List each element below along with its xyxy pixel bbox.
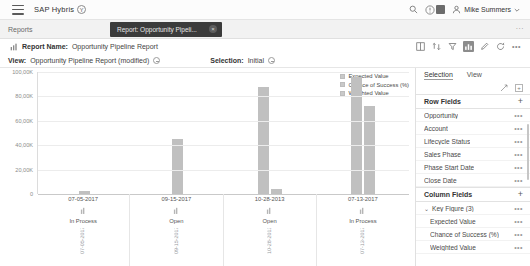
field-row-menu-icon[interactable]: ••• — [514, 164, 523, 171]
side-panel-scroll[interactable]: Row Fields+Opportunity•••Account•••Lifec… — [416, 94, 530, 266]
chart-view-icon[interactable] — [463, 41, 474, 52]
expand-collapse-icon[interactable] — [500, 84, 508, 92]
x-axis-status-label: In Process — [69, 218, 96, 224]
field-row[interactable]: Phase Start Date••• — [416, 161, 530, 174]
x-axis-mini-bar-icon — [359, 206, 366, 214]
field-row[interactable]: Weighted Value••• — [416, 241, 530, 254]
hamburger-menu-icon[interactable] — [12, 5, 24, 15]
user-menu[interactable]: Mike Summers — [452, 5, 520, 14]
field-row-menu-icon[interactable]: ••• — [514, 138, 523, 145]
selection-value[interactable]: Initial — [248, 57, 264, 64]
field-row-label: Opportunity — [424, 112, 458, 119]
user-avatar-icon — [452, 5, 461, 14]
add-field-button[interactable]: + — [518, 97, 523, 106]
y-axis-tick-label: 60,00K — [15, 118, 33, 124]
field-row-menu-icon[interactable]: ••• — [514, 151, 523, 158]
side-panel: SelectionView + Row Fields+Opportunity••… — [415, 68, 530, 266]
table-view-icon[interactable] — [415, 41, 426, 52]
gridline — [38, 145, 409, 146]
view-selection-bar: View: Opportunity Pipeline Report (modif… — [0, 54, 530, 68]
close-icon[interactable]: × — [209, 25, 217, 33]
field-row-menu-icon[interactable]: ••• — [514, 218, 523, 225]
x-axis-mini-bar-icon — [173, 206, 180, 214]
field-row-menu-icon[interactable]: ••• — [514, 205, 523, 212]
add-field-button[interactable]: + — [518, 190, 523, 199]
side-panel-tab[interactable]: View — [467, 71, 482, 79]
chart-bar[interactable] — [172, 139, 183, 194]
field-row-label: Key Figure (3) — [432, 205, 474, 212]
field-row-name: Chance of Success (%) — [430, 231, 499, 238]
breadcrumb-bar: Reports Report: Opportunity Pipeli... × … — [0, 20, 530, 39]
shell-actions: Mike Summers — [409, 5, 524, 15]
view-value[interactable]: Opportunity Pipeline Report (modified) — [30, 57, 149, 64]
notification-bell-icon[interactable] — [425, 5, 445, 15]
refresh-icon[interactable] — [495, 41, 506, 52]
gridline — [38, 72, 409, 73]
x-axis-rotated-label: 09-15-2017 — [174, 228, 179, 254]
x-axis-mini-bar-icon — [266, 206, 273, 214]
bar-chart-icon — [10, 43, 18, 51]
x-axis-status-label: Open — [169, 218, 183, 224]
field-row-label: Chance of Success (%) — [430, 231, 499, 238]
x-axis-cell: 07-13-2017In Process07-13-2017 — [316, 194, 409, 266]
field-row-label: Phase Start Date — [424, 164, 474, 171]
y-axis-tick-label: 40,00K — [15, 142, 33, 148]
brand-name: SAP Hybris — [34, 5, 74, 14]
open-report-tab[interactable]: Report: Opportunity Pipeli... × — [110, 22, 222, 37]
application-window: SAP Hybris Y Mike Summers Reports Report… — [0, 0, 530, 266]
field-row-label: Close Date — [424, 177, 457, 184]
field-row-label: Lifecycle Status — [424, 138, 470, 145]
shell-bar: SAP Hybris Y Mike Summers — [0, 0, 530, 20]
field-row[interactable]: Close Date••• — [416, 174, 530, 187]
field-row[interactable]: ⌄Key Figure (3)••• — [416, 202, 530, 215]
x-axis-cell: 07-05-2017In Process07-05-2017 — [37, 194, 129, 266]
sort-icon[interactable] — [431, 41, 442, 52]
add-column-icon[interactable]: + — [515, 84, 523, 92]
chart-bar[interactable] — [351, 77, 362, 194]
field-row-label: Sales Phase — [424, 151, 461, 158]
field-row[interactable]: Chance of Success (%)••• — [416, 228, 530, 241]
x-axis-mini-bar-icon — [80, 206, 87, 214]
info-circle-icon — [153, 57, 160, 64]
filter-icon[interactable] — [447, 41, 458, 52]
x-axis-date-label: 07-13-2017 — [348, 196, 378, 202]
overflow-icon[interactable]: ••• — [511, 41, 522, 52]
notification-count-badge — [436, 5, 445, 14]
y-axis-labels: 100,00K80,00K60,00K40,00K20,00K0 — [0, 72, 36, 194]
field-row-menu-icon[interactable]: ••• — [514, 125, 523, 132]
field-row[interactable]: Lifecycle Status••• — [416, 135, 530, 148]
field-row-menu-icon[interactable]: ••• — [514, 231, 523, 238]
chevron-down-icon[interactable]: ⌄ — [424, 205, 429, 212]
field-row[interactable]: Account••• — [416, 122, 530, 135]
selection-label: Selection: — [210, 57, 243, 64]
scrollbar-thumb[interactable] — [527, 124, 529, 180]
field-row-label: Account — [424, 125, 448, 132]
selection-info-circle-icon — [268, 57, 275, 64]
chart-bar[interactable] — [364, 106, 375, 194]
field-row-menu-icon[interactable]: ••• — [514, 244, 523, 251]
side-panel-icons: + — [416, 82, 530, 94]
field-row-name: Close Date — [424, 177, 457, 184]
settings-icon[interactable] — [479, 41, 490, 52]
breadcrumb-overflow-icon[interactable]: ... — [516, 22, 524, 31]
field-row-menu-icon[interactable]: ••• — [514, 112, 523, 119]
field-section-header: Column Fields+ — [416, 187, 530, 202]
field-row-name: Sales Phase — [424, 151, 461, 158]
brand-logo[interactable]: SAP Hybris Y — [34, 5, 86, 14]
report-toolbar: ••• — [415, 41, 524, 52]
field-row-label: Weighted Value — [430, 244, 476, 251]
y-axis-tick-label: 0 — [30, 191, 33, 197]
field-row[interactable]: Expected Value••• — [416, 215, 530, 228]
field-row-menu-icon[interactable]: ••• — [514, 177, 523, 184]
chart-bar[interactable] — [258, 87, 269, 194]
report-name-label: Report Name: — [22, 43, 68, 50]
report-header: Report Name: Opportunity Pipeline Report… — [0, 39, 530, 54]
side-panel-tab[interactable]: Selection — [424, 71, 453, 80]
field-row[interactable]: Opportunity••• — [416, 109, 530, 122]
field-row[interactable]: Sales Phase••• — [416, 148, 530, 161]
search-icon[interactable] — [409, 5, 418, 14]
x-axis-rotated-label: 07-05-2017 — [80, 228, 85, 254]
gridline — [38, 170, 409, 171]
breadcrumb-root[interactable]: Reports — [8, 26, 33, 33]
y-axis-tick-label: 20,00K — [15, 167, 33, 173]
